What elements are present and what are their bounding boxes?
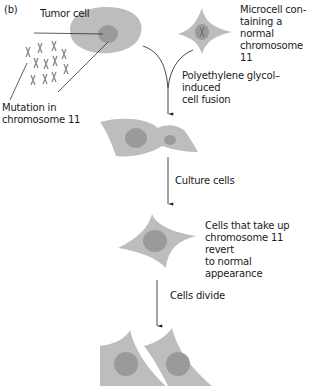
tumor-cell-label: Tumor cell: [40, 8, 89, 20]
culture-step-label: Culture cells: [175, 175, 234, 187]
revert-label: Cells that take up chromosome 11 revert …: [205, 220, 311, 280]
reverted-cell: [118, 214, 196, 268]
fused-cell: [100, 119, 198, 157]
divided-cells: [100, 328, 212, 386]
fusion-step-label: Polyethylene glycol–induced cell fusion: [182, 70, 311, 106]
mutation-pointer: [10, 63, 27, 100]
divide-step-label: Cells divide: [170, 290, 225, 302]
chromosome-icons: [26, 41, 68, 85]
mutation-label: Mutation in chromosome 11: [2, 102, 80, 126]
microcell-label: Microcell con- taining a normal chromoso…: [240, 4, 311, 64]
panel-label: (b): [4, 4, 18, 16]
microcell: [178, 8, 232, 54]
